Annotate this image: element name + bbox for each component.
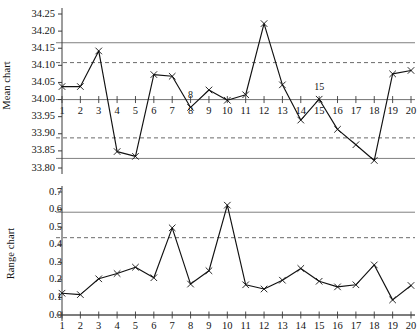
- mean-chart-plot: [0, 0, 419, 178]
- range-chart-plot: [0, 178, 419, 335]
- range-chart-panel: Range chart 0.00.10.20.30.40.50.60.7 123…: [0, 178, 419, 335]
- data-series-line: [62, 205, 411, 300]
- data-series-line: [62, 24, 411, 161]
- control-chart-figure: Mean chart 33.8033.8533.9033.9534.0034.0…: [0, 0, 419, 335]
- mean-chart-panel: Mean chart 33.8033.8533.9033.9534.0034.0…: [0, 0, 419, 178]
